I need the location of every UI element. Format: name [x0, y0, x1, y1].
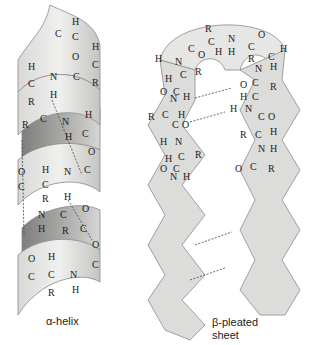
svg-text:N: N: [50, 71, 57, 82]
svg-text:H: H: [280, 43, 287, 54]
svg-text:O: O: [240, 79, 247, 90]
svg-text:O: O: [182, 119, 189, 130]
svg-text:C: C: [60, 209, 67, 220]
svg-text:H: H: [72, 16, 79, 27]
svg-text:N: N: [62, 116, 69, 127]
svg-text:C: C: [28, 271, 35, 282]
svg-text:C: C: [40, 113, 47, 124]
svg-text:C: C: [162, 109, 169, 120]
svg-text:C: C: [42, 179, 49, 190]
svg-text:C: C: [82, 128, 89, 139]
svg-text:R: R: [62, 225, 69, 236]
svg-text:H: H: [42, 164, 49, 175]
svg-text:O: O: [82, 203, 89, 214]
svg-text:R: R: [270, 81, 277, 92]
svg-text:C: C: [248, 41, 255, 52]
svg-text:C: C: [48, 269, 55, 280]
svg-text:N: N: [175, 136, 182, 147]
svg-text:N: N: [245, 103, 252, 114]
svg-text:H: H: [165, 73, 172, 84]
svg-text:N: N: [255, 63, 262, 74]
figure-svg: HCCO HCR HCR NCH CRNH HCO OCHCR NCH NHCR…: [0, 0, 311, 345]
svg-text:H: H: [160, 136, 167, 147]
alpha-helix-diagram: HCCO HCR HCR NCH CRNH HCO OCHCR NCH NHCR…: [18, 5, 100, 315]
svg-text:H: H: [50, 89, 57, 100]
svg-text:R: R: [28, 96, 35, 107]
svg-text:C: C: [188, 43, 195, 54]
svg-text:C: C: [92, 259, 99, 270]
svg-text:H: H: [85, 109, 92, 120]
svg-text:O: O: [258, 29, 265, 40]
svg-text:H: H: [230, 103, 237, 114]
svg-text:O: O: [18, 166, 25, 177]
svg-text:H: H: [64, 191, 71, 202]
beta-sheet-caption-line1: β-pleated: [212, 316, 258, 329]
svg-text:C: C: [18, 181, 25, 192]
svg-text:C: C: [180, 69, 187, 80]
svg-text:O: O: [268, 111, 275, 122]
svg-text:N: N: [228, 33, 235, 44]
alpha-helix-caption: α-helix: [46, 315, 79, 328]
svg-text:O: O: [92, 239, 99, 250]
svg-text:R: R: [248, 53, 255, 64]
svg-text:C: C: [172, 119, 179, 130]
svg-text:N: N: [170, 171, 177, 182]
svg-text:R: R: [22, 119, 29, 130]
svg-text:C: C: [258, 111, 265, 122]
svg-text:O: O: [160, 163, 167, 174]
svg-text:O: O: [28, 253, 35, 264]
svg-text:O: O: [235, 163, 242, 174]
svg-text:H: H: [240, 91, 247, 102]
svg-text:C: C: [80, 223, 87, 234]
svg-text:R: R: [195, 66, 202, 77]
protein-secondary-structure-figure: HCCO HCR HCR NCH CRNH HCO OCHCR NCH NHCR…: [0, 0, 311, 345]
svg-text:C: C: [178, 151, 185, 162]
svg-text:O: O: [72, 51, 79, 62]
svg-text:C: C: [255, 129, 262, 140]
svg-text:H: H: [228, 46, 235, 57]
svg-text:H: H: [38, 223, 45, 234]
svg-text:H: H: [72, 284, 79, 295]
svg-text:C: C: [84, 164, 91, 175]
svg-text:R: R: [195, 149, 202, 160]
svg-text:C: C: [73, 71, 80, 82]
svg-text:C: C: [252, 91, 259, 102]
svg-text:H: H: [155, 53, 162, 64]
svg-text:R: R: [268, 163, 275, 174]
svg-text:R: R: [48, 287, 55, 298]
svg-text:H: H: [270, 126, 277, 137]
svg-text:R: R: [148, 111, 155, 122]
svg-text:O: O: [160, 86, 167, 97]
svg-text:N: N: [64, 166, 71, 177]
svg-text:H: H: [270, 61, 277, 72]
svg-text:N: N: [258, 143, 265, 154]
svg-text:C: C: [208, 36, 215, 47]
svg-text:N: N: [70, 269, 77, 280]
svg-text:H: H: [28, 61, 35, 72]
svg-text:C: C: [55, 28, 62, 39]
svg-text:R: R: [205, 23, 212, 34]
svg-text:H: H: [270, 143, 277, 154]
svg-text:R: R: [240, 129, 247, 140]
svg-text:R: R: [92, 77, 99, 88]
svg-text:H: H: [92, 41, 99, 52]
svg-text:C: C: [250, 161, 257, 172]
svg-text:C: C: [252, 77, 259, 88]
svg-text:O: O: [88, 146, 95, 157]
svg-text:N: N: [38, 209, 45, 220]
svg-text:H: H: [215, 46, 222, 57]
svg-text:C: C: [72, 31, 79, 42]
svg-text:N: N: [170, 93, 177, 104]
svg-text:C: C: [28, 78, 35, 89]
beta-pleated-sheet-diagram: RCNOC COHH HNCHR HCRNH OCOCR NHHC RCHHN …: [148, 23, 300, 340]
svg-text:H: H: [183, 91, 190, 102]
svg-text:C: C: [92, 59, 99, 70]
svg-text:H: H: [183, 171, 190, 182]
beta-sheet-caption-line2: sheet: [212, 329, 239, 342]
svg-text:O: O: [198, 49, 205, 60]
svg-text:R: R: [42, 193, 49, 204]
svg-text:H: H: [48, 251, 55, 262]
svg-text:H: H: [65, 131, 72, 142]
svg-text:N: N: [175, 56, 182, 67]
